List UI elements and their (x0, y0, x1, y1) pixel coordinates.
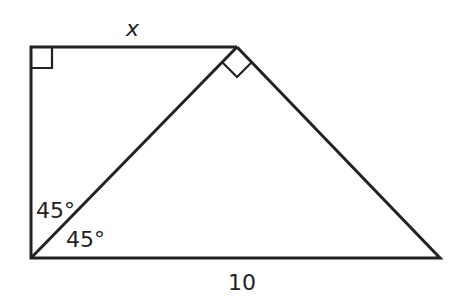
right-angle-marker-topleft (31, 47, 52, 68)
figure-lines (0, 0, 467, 304)
right-angle-marker-apex (222, 62, 252, 77)
geometry-figure: x 45° 45° 10 (0, 0, 467, 304)
label-top-side-x: x (126, 18, 139, 40)
label-bottom-side: 10 (228, 272, 256, 294)
label-angle-lower: 45° (66, 229, 105, 251)
diagonal (31, 47, 237, 258)
label-angle-upper: 45° (36, 200, 75, 222)
